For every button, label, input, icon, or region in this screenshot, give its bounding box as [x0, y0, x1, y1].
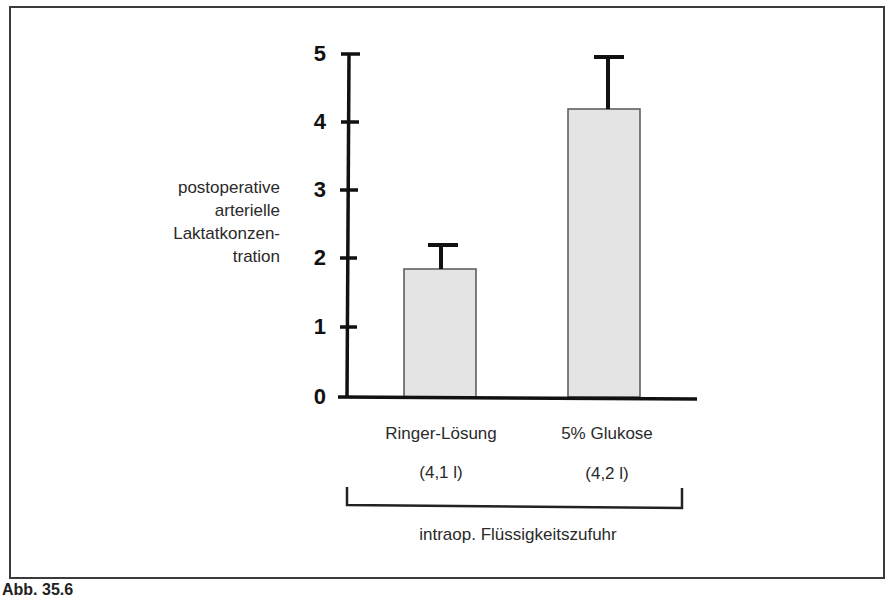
error-bar-ringer-loesung [428, 245, 458, 269]
category-sublabel-ringer-loesung: (4,1 l) [370, 463, 512, 483]
bar-glukose [568, 109, 640, 397]
category-label-ringer-loesung: Ringer-Lösung [370, 424, 512, 444]
error-bar-glukose [594, 57, 624, 109]
y-axis [340, 54, 360, 398]
x-axis [338, 397, 697, 399]
x-axis-group-label: intraop. Flüssigkeitszufuhr [348, 525, 688, 545]
group-bracket [347, 487, 682, 508]
category-sublabel-glukose: (4,2 l) [540, 464, 674, 484]
bar-ringer-loesung [404, 269, 476, 397]
figure-caption: Abb. 35.6 [2, 582, 73, 598]
category-label-glukose: 5% Glukose [540, 424, 674, 444]
